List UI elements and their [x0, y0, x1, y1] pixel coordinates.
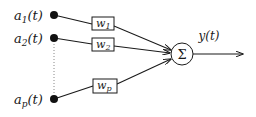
input-label-a1: a1(t): [14, 8, 43, 25]
sigma-symbol: Σ: [177, 47, 186, 62]
input-label-ap: ap(t): [14, 92, 43, 109]
input-node-ap: [50, 95, 58, 103]
weight-box-w2: w2: [92, 38, 114, 52]
neuron-diagram: a1(t) a2(t) ap(t) w1 w2 wp Σ y(t): [0, 0, 256, 117]
edge-ap-wp: [54, 86, 93, 99]
edge-a1-w1: [54, 15, 92, 24]
input-node-a2: [50, 34, 58, 42]
output-label: y(t): [198, 29, 220, 43]
edge-w2-sum: [114, 46, 170, 53]
edge-w1-sum: [114, 26, 171, 50]
edge-a2-w2: [54, 38, 92, 44]
input-node-a1: [50, 11, 58, 19]
weight-box-wp: wp: [93, 79, 117, 93]
summation-node: Σ: [171, 43, 193, 65]
edge-wp-sum: [117, 59, 171, 84]
weight-box-w1: w1: [92, 17, 114, 31]
input-label-a2: a2(t): [14, 31, 43, 48]
